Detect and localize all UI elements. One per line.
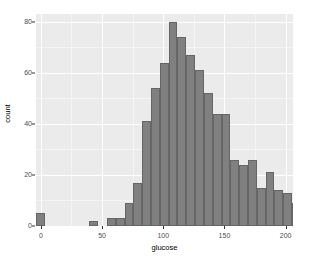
histogram-bar [266,172,275,226]
histogram-bar [125,203,134,226]
y-axis-tick-label: 20 [14,171,32,179]
y-axis-tick-mark [32,72,35,73]
x-axis-tick-mark [286,226,287,229]
y-axis-tick-label: 80 [14,18,32,26]
histogram-bar [248,160,257,226]
x-axis-tick-label: 100 [148,231,178,240]
x-axis-title: glucose [36,243,293,252]
y-axis-tick-mark [32,174,35,175]
histogram-bar [292,203,293,226]
x-axis-tick-label: 150 [209,231,239,240]
gridline-major-horizontal [36,22,293,23]
x-axis-tick-mark [163,226,164,229]
histogram-bar [239,165,248,226]
histogram-bar [142,121,151,226]
y-axis-tick-mark [32,21,35,22]
histogram-bar [195,70,204,226]
histogram-bar [89,221,98,226]
y-axis-tick-mark [32,123,35,124]
gridline-major-vertical [41,14,42,226]
plot-panel [36,14,293,226]
histogram-bar [257,188,266,226]
gridline-major-vertical [102,14,103,226]
x-axis-tick-mark [224,226,225,229]
y-axis-title-label: count [3,104,12,122]
x-axis-tick-label: 200 [271,231,301,240]
histogram-bar [151,88,160,226]
histogram-chart: count 020406080 glucose 050100150200 [0,0,311,268]
y-axis-tick-mark [32,226,35,227]
x-axis-tick-mark [102,226,103,229]
histogram-bar [222,114,231,226]
histogram-bar [213,114,222,226]
y-axis-tick-label: 40 [14,120,32,128]
histogram-bar [204,93,213,226]
y-axis-tick-label: 60 [14,69,32,77]
histogram-bar [274,190,283,226]
histogram-bar [169,22,178,226]
histogram-bar [160,63,169,226]
histogram-bar [283,193,292,226]
histogram-bar [230,160,239,226]
histogram-bar [107,218,116,226]
x-axis-tick-mark [41,226,42,229]
y-axis-tick-label: 0 [14,222,32,230]
histogram-bar [186,55,195,226]
y-axis-tick-labels: 020406080 [12,0,32,268]
gridline-minor-vertical [71,14,72,226]
x-axis-tick-label: 0 [26,231,56,240]
x-axis-tick-label: 50 [87,231,117,240]
histogram-bar [133,183,142,226]
histogram-bar [36,213,45,226]
histogram-bar [116,218,125,226]
histogram-bar [177,37,186,226]
